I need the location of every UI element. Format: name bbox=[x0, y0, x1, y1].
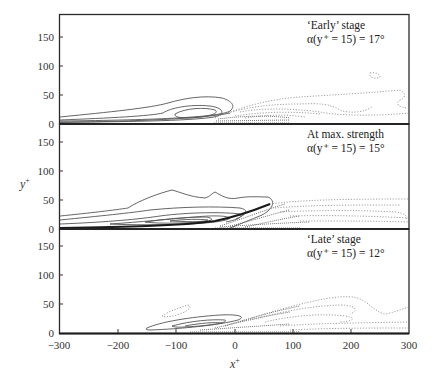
y-tick-100: 100 bbox=[38, 165, 55, 177]
annotation-early: ‘Early’ stage α(y⁺ = 15) = 17° bbox=[307, 19, 385, 46]
positive-contours bbox=[146, 315, 241, 330]
annotation-line2: α(y⁺ = 15) = 17° bbox=[307, 33, 385, 46]
y-tick-100: 100 bbox=[38, 60, 55, 72]
y-tick-0: 0 bbox=[49, 327, 55, 339]
annotation-max-strength: At max. strength α(y⁺ = 15) = 15° bbox=[307, 128, 385, 155]
y-tick-150: 150 bbox=[38, 240, 55, 252]
annotation-line1: ‘Early’ stage bbox=[307, 19, 365, 32]
positive-contours bbox=[60, 97, 233, 123]
y-tick-0: 0 bbox=[49, 118, 55, 130]
x-tick-neg100: −100 bbox=[165, 339, 188, 351]
panel-max-strength: 150 100 50 0 At max. strength α(y⁺ = 15)… bbox=[38, 124, 410, 235]
panel-late: 150 100 50 0 −300 −200 −100 0 100 200 30… bbox=[38, 229, 418, 351]
x-tick-100: 100 bbox=[285, 339, 302, 351]
y-tick-150: 150 bbox=[38, 136, 55, 148]
negative-contours bbox=[214, 73, 409, 123]
annotation-line1: At max. strength bbox=[307, 128, 384, 141]
annotation-line1: ‘Late’ stage bbox=[307, 233, 361, 246]
y-tick-0: 0 bbox=[49, 223, 55, 235]
y-axis-label: y+ bbox=[19, 176, 30, 191]
y-tick-50: 50 bbox=[43, 89, 55, 101]
annotation-line2: α(y⁺ = 15) = 15° bbox=[307, 142, 385, 155]
y-tick-50: 50 bbox=[43, 298, 55, 310]
x-tick-200: 200 bbox=[343, 339, 360, 351]
annotation-line2: α(y⁺ = 15) = 12° bbox=[307, 247, 385, 260]
annotation-late: ‘Late’ stage α(y⁺ = 15) = 12° bbox=[307, 233, 385, 260]
y-tick-50: 50 bbox=[43, 194, 55, 206]
x-tick-300: 300 bbox=[401, 339, 418, 351]
x-tick-0: 0 bbox=[232, 339, 238, 351]
panel-early: 150 100 50 0 ‘Early’ stage α(y⁺ = 15) = … bbox=[38, 15, 410, 131]
x-tick-neg300: −300 bbox=[48, 339, 71, 351]
contour-figure: 150 100 50 0 ‘Early’ stage α(y⁺ = 15) = … bbox=[0, 0, 436, 378]
x-axis-label: x+ bbox=[229, 356, 240, 371]
y-tick-150: 150 bbox=[38, 31, 55, 43]
y-tick-100: 100 bbox=[38, 269, 55, 281]
positive-contours bbox=[60, 190, 273, 228]
x-tick-neg200: −200 bbox=[107, 339, 130, 351]
